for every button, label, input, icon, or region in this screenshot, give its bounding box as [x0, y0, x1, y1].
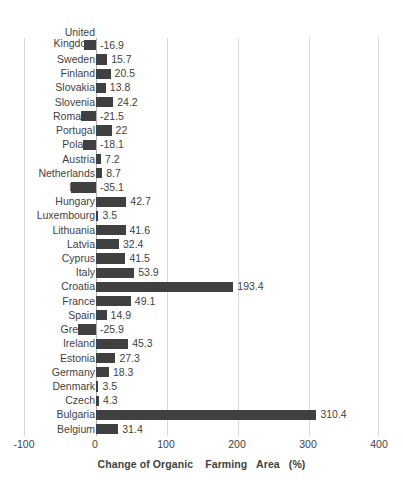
category-label: Bulgaria [0, 409, 95, 420]
bar-row: Latvia32.4 [25, 237, 378, 251]
x-tick-label: -100 [13, 438, 34, 450]
bar[interactable] [81, 111, 96, 121]
category-label: Latvia [0, 239, 95, 250]
category-label: Portugal [0, 125, 95, 136]
bar-row: Portugal22 [25, 123, 378, 137]
bar[interactable] [96, 367, 109, 377]
bar-chart: United Kingdom-16.9Sweden15.7Finland20.5… [0, 0, 403, 497]
value-label: 27.3 [119, 353, 139, 364]
value-label: 3.5 [102, 210, 117, 221]
bar-row: Denmark3.5 [25, 379, 378, 393]
category-label: Luxembourg [0, 210, 95, 221]
category-label: Cyprus [0, 253, 95, 264]
value-label: 193.4 [237, 281, 263, 292]
category-label: Finland [0, 68, 95, 79]
bar-row: Austria7.2 [25, 152, 378, 166]
bar-row: Italy53.9 [25, 265, 378, 279]
bar[interactable] [83, 140, 96, 150]
value-label: 8.7 [106, 168, 121, 179]
bar[interactable] [96, 381, 98, 391]
value-label: -18.1 [100, 139, 124, 150]
bar-row: Slovakia13.8 [25, 81, 378, 95]
bar[interactable] [96, 396, 99, 406]
value-label: -35.1 [100, 182, 124, 193]
bar[interactable] [96, 339, 128, 349]
category-label: Hungary [0, 196, 95, 207]
bar[interactable] [96, 239, 119, 249]
bar-row: Sweden15.7 [25, 52, 378, 66]
value-label: 4.3 [103, 395, 118, 406]
value-label: 18.3 [113, 367, 133, 378]
value-label: -21.5 [100, 111, 124, 122]
value-label: 41.6 [130, 225, 150, 236]
bar[interactable] [96, 69, 111, 79]
category-label: Slovenia [0, 97, 95, 108]
value-label: 3.5 [102, 381, 117, 392]
bar[interactable] [96, 225, 126, 235]
bar[interactable] [96, 410, 316, 420]
value-label: 45.3 [132, 338, 152, 349]
value-label: 20.5 [115, 68, 135, 79]
category-label: Austria [0, 154, 95, 165]
bar-row: Estonia27.3 [25, 351, 378, 365]
value-label: 22 [116, 125, 128, 136]
bar-row: Poland-18.1 [25, 138, 378, 152]
category-label: Belgium [0, 424, 95, 435]
bar[interactable] [71, 182, 96, 192]
category-label: Sweden [0, 54, 95, 65]
category-label: Poland [0, 139, 95, 150]
category-label: Denmark [0, 381, 95, 392]
value-label: 49.1 [135, 296, 155, 307]
bar-row: Hungary42.7 [25, 194, 378, 208]
value-label: 41.5 [129, 253, 149, 264]
x-tick-label: 100 [157, 438, 175, 450]
bar[interactable] [96, 168, 102, 178]
bar[interactable] [96, 97, 113, 107]
bar[interactable] [96, 268, 134, 278]
bar[interactable] [96, 54, 107, 64]
bar-row: Greece-25.9 [25, 322, 378, 336]
bar[interactable] [96, 310, 107, 320]
category-label: Italy [0, 267, 95, 278]
x-tick-label: 200 [228, 438, 246, 450]
bar[interactable] [96, 154, 101, 164]
bar[interactable] [96, 253, 125, 263]
bar-rows: United Kingdom-16.9Sweden15.7Finland20.5… [25, 38, 378, 436]
category-label: Estonia [0, 353, 95, 364]
category-label: Lithuania [0, 225, 95, 236]
bar-row: Ireland45.3 [25, 337, 378, 351]
bar-row: Lithuania41.6 [25, 223, 378, 237]
bar[interactable] [96, 353, 115, 363]
value-label: -25.9 [100, 324, 124, 335]
value-label: 53.9 [138, 267, 158, 278]
value-label: 32.4 [123, 239, 143, 250]
bar-row: Croatia193.4 [25, 280, 378, 294]
bar-row: Slovenia24.2 [25, 95, 378, 109]
category-label: Croatia [0, 281, 95, 292]
category-label: France [0, 296, 95, 307]
bar-row: Malta-35.1 [25, 180, 378, 194]
bar[interactable] [96, 83, 106, 93]
bar[interactable] [84, 40, 96, 50]
bar[interactable] [96, 296, 131, 306]
plot-area: United Kingdom-16.9Sweden15.7Finland20.5… [24, 38, 379, 436]
bar[interactable] [96, 282, 233, 292]
bar-row: Czech4.3 [25, 393, 378, 407]
x-tick-label: 300 [299, 438, 317, 450]
x-axis-title: Change of Organic Farming Area (%) [0, 458, 403, 470]
value-label: 14.9 [111, 310, 131, 321]
bar[interactable] [96, 424, 118, 434]
bar-row: Spain14.9 [25, 308, 378, 322]
bar-row: Finland20.5 [25, 66, 378, 80]
bar-row: Belgium31.4 [25, 422, 378, 436]
value-label: 7.2 [105, 154, 120, 165]
bar-row: Cyprus41.5 [25, 251, 378, 265]
bar[interactable] [96, 197, 126, 207]
value-label: 13.8 [110, 82, 130, 93]
value-label: 310.4 [320, 409, 346, 420]
category-label: Netherlands [0, 168, 95, 179]
bar-row: Luxembourg3.5 [25, 209, 378, 223]
bar[interactable] [96, 211, 98, 221]
bar[interactable] [96, 125, 112, 135]
bar[interactable] [78, 324, 96, 334]
